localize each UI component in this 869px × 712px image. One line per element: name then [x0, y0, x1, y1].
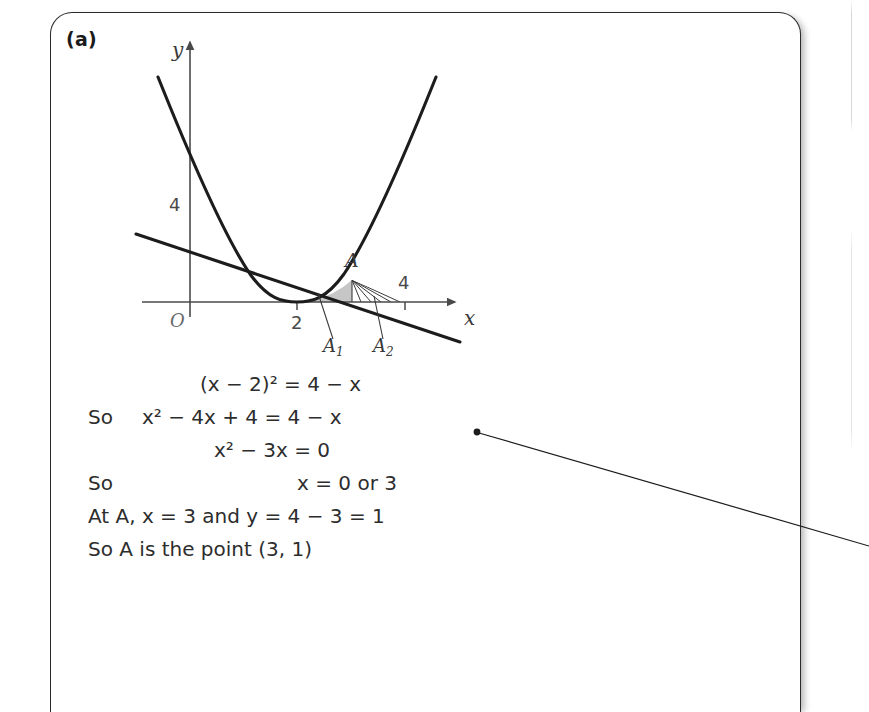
card-bottom-fade — [51, 650, 800, 712]
working-line-3: x² − 3x = 0 — [88, 434, 558, 467]
point-label-A: A — [343, 249, 359, 271]
region-label-A2: A2 — [371, 335, 394, 359]
working-line-4-text: x = 0 or 3 — [297, 467, 397, 500]
working-line-2: So x² − 4x + 4 = 4 − x — [88, 401, 558, 434]
parabola-curve — [158, 77, 436, 302]
working-line-5-text: At A, x = 3 and y = 4 − 3 = 1 — [88, 500, 385, 533]
origin-label: O — [170, 310, 185, 331]
working-line-2-text: x² − 4x + 4 = 4 − x — [142, 401, 342, 434]
working-steps: (x − 2)² = 4 − x So x² − 4x + 4 = 4 − x … — [88, 368, 558, 566]
working-line-3-text: x² − 3x = 0 — [214, 434, 330, 467]
working-line-4-lead: So — [88, 467, 113, 500]
working-line-5: At A, x = 3 and y = 4 − 3 = 1 — [88, 500, 558, 533]
adjacent-panel-edge — [851, 0, 852, 675]
region-label-A1: A1 — [321, 335, 344, 359]
working-line-4: So x = 0 or 3 — [88, 467, 558, 500]
graph-figure: y x O 4 2 4 A A1 A2 — [50, 12, 530, 362]
working-line-2-lead: So — [88, 401, 113, 434]
y-intercept-label-4: 4 — [169, 194, 180, 215]
x-axis-label: x — [464, 306, 475, 330]
x-label-2: 2 — [291, 312, 302, 333]
working-line-6-text: So A is the point (3, 1) — [88, 533, 312, 566]
working-line-6: So A is the point (3, 1) — [88, 533, 558, 566]
graph-svg: y x O 4 2 4 A A1 A2 — [50, 12, 530, 362]
working-line-1: (x − 2)² = 4 − x — [88, 368, 558, 401]
working-line-1-text: (x − 2)² = 4 − x — [200, 368, 361, 401]
y-axis-label: y — [171, 38, 184, 62]
x-label-4: 4 — [398, 272, 409, 293]
